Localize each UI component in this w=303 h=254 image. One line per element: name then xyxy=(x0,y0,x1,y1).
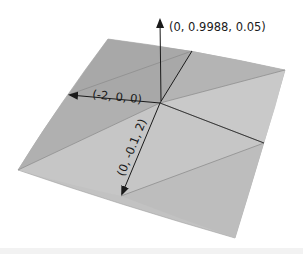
bottom-divider xyxy=(0,248,303,254)
diagram-canvas: (0, 0.9988, 0.05) (-2, 0, 0) (0, -0.1, 2… xyxy=(0,0,303,254)
surface-diagram: (0, 0.9988, 0.05) (-2, 0, 0) (0, -0.1, 2… xyxy=(0,0,303,254)
vector-normal-label: (0, 0.9988, 0.05) xyxy=(169,20,266,34)
